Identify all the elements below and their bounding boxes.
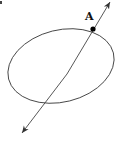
line-lower-ray — [22, 74, 67, 133]
ellipse — [0, 18, 116, 114]
point-A — [90, 26, 95, 31]
point-A-label: A — [84, 10, 94, 23]
diagram-canvas: A — [0, 0, 116, 145]
stray-mark — [0, 1, 2, 4]
